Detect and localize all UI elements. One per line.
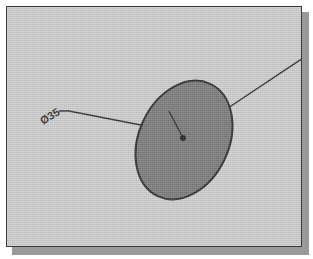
- center-mark: [180, 135, 186, 141]
- diameter-dimension-label: Ø35: [38, 105, 62, 126]
- drawing-stage: Ø35: [0, 0, 313, 259]
- drawing-canvas[interactable]: Ø35: [7, 7, 302, 247]
- drawing-frame[interactable]: Ø35: [6, 6, 302, 247]
- diameter-leader-left: [59, 111, 146, 126]
